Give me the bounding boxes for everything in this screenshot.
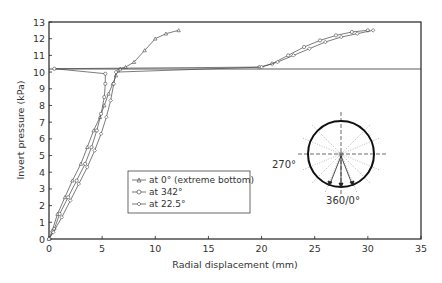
- svg-text:at 22.5°: at 22.5°: [149, 199, 185, 209]
- svg-text:at 0° (extreme bottom): at 0° (extreme bottom): [149, 175, 254, 185]
- y-tick-label: 4: [39, 167, 45, 178]
- legend: at 0° (extreme bottom) at 342° at 22.5°: [128, 171, 254, 213]
- x-tick-label: 30: [362, 243, 374, 254]
- y-tick-label: 13: [33, 17, 45, 28]
- x-tick-label: 15: [202, 243, 214, 254]
- y-tick-label: 6: [39, 133, 45, 144]
- y-tick-label: 2: [39, 200, 45, 211]
- legend-item-0: at 0° (extreme bottom): [132, 175, 254, 185]
- x-tick-label: 10: [149, 243, 161, 254]
- y-tick-label: 12: [33, 33, 45, 44]
- x-tick-label: 35: [415, 243, 427, 254]
- angle-label-360: 360/0°: [326, 195, 360, 206]
- x-tick-label: 0: [46, 243, 52, 254]
- svg-text:at 342°: at 342°: [149, 187, 183, 197]
- load-arrows: [328, 156, 354, 188]
- y-axis-title: Invert pressure (kPa): [15, 80, 26, 179]
- y-tick-label: 7: [39, 117, 45, 128]
- y-tick-label: 8: [39, 100, 45, 111]
- y-tick-label: 5: [39, 150, 45, 161]
- x-tick-label: 5: [99, 243, 105, 254]
- chart: 012345678910111213 05101520253035 Radial…: [0, 0, 442, 283]
- angle-label-270: 270°: [272, 159, 296, 170]
- x-axis-title: Radial displacement (mm): [172, 259, 297, 270]
- y-tick-label: 0: [39, 234, 45, 245]
- pipe-cross-section-inset: 270° 360/0°: [272, 112, 386, 206]
- x-tick-label: 25: [309, 243, 321, 254]
- y-tick-label: 10: [33, 67, 45, 78]
- y-tick-label: 11: [33, 50, 45, 61]
- y-tick-label: 3: [39, 183, 45, 194]
- y-tick-label: 1: [39, 217, 45, 228]
- x-tick-label: 20: [256, 243, 268, 254]
- y-tick-label: 9: [39, 83, 45, 94]
